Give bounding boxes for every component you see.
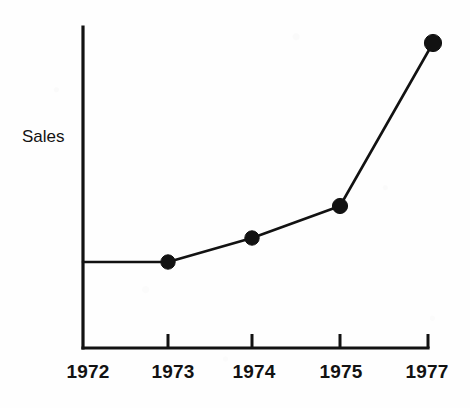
data-point-1974 — [245, 231, 259, 245]
x-tick-label-1972: 1972 — [66, 361, 109, 382]
x-tick-label-1977: 1977 — [405, 361, 448, 382]
sales-line-chart-figure: Sales 1972 1973 1974 1975 1977 — [0, 0, 470, 408]
data-point-1975 — [332, 198, 347, 213]
chart-plot-area: Sales 1972 1973 1974 1975 1977 — [0, 0, 470, 408]
y-axis-label: Sales — [22, 127, 65, 146]
x-tick-label-1974: 1974 — [232, 361, 275, 382]
x-tick-label-1973: 1973 — [151, 361, 194, 382]
data-point-1973 — [161, 255, 175, 269]
x-tick-label-1975: 1975 — [319, 361, 362, 382]
data-point-1977 — [424, 34, 441, 51]
sales-series-line — [83, 43, 433, 262]
